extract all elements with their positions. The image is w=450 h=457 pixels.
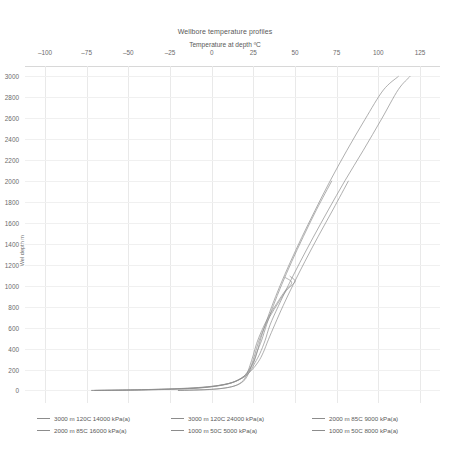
y-tick-label: 2200	[5, 157, 19, 164]
series-line	[92, 76, 399, 390]
y-tick-label: 2600	[5, 115, 19, 122]
legend-line-icon	[312, 430, 325, 431]
series-line	[95, 181, 332, 390]
series-lines	[25, 66, 440, 403]
x-tick-label: –50	[123, 49, 134, 56]
chart-title: Wellbore temperature profiles	[0, 28, 450, 35]
legend-item[interactable]: 3000 m 120C 24000 kPa(a)	[171, 415, 264, 422]
x-tick-label: 0	[210, 49, 214, 56]
legend-item[interactable]: 1000 m 50C 8000 kPa(a)	[312, 427, 398, 434]
x-tick-label: –75	[81, 49, 92, 56]
y-tick-label: 800	[8, 303, 19, 310]
legend-item[interactable]: 2000 m 85C 9000 kPa(a)	[312, 415, 398, 422]
x-tick-label: 100	[373, 49, 384, 56]
legend-label: 3000 m 120C 14000 kPa(a)	[54, 415, 130, 422]
legend-line-icon	[312, 418, 325, 419]
plot-area: –100–75–50–250255075100125 0200400600800…	[25, 66, 440, 403]
legend-label: 2000 m 85C 16000 kPa(a)	[54, 427, 127, 434]
y-tick-label: 0	[15, 387, 19, 394]
legend-line-icon	[171, 430, 184, 431]
y-tick-label: 2800	[5, 94, 19, 101]
y-tick-label: 400	[8, 345, 19, 352]
y-tick-label: 2000	[5, 178, 19, 185]
y-tick-label: 3000	[5, 73, 19, 80]
series-line	[95, 181, 348, 390]
legend-line-icon	[37, 418, 50, 419]
legend-item[interactable]: 2000 m 85C 16000 kPa(a)	[37, 427, 127, 434]
x-tick-label: 25	[250, 49, 257, 56]
y-tick-label: 1600	[5, 219, 19, 226]
y-tick-label: 600	[8, 324, 19, 331]
x-tick-label: 125	[415, 49, 426, 56]
legend-line-icon	[171, 418, 184, 419]
y-tick-label: 200	[8, 366, 19, 373]
x-tick-label: 75	[333, 49, 340, 56]
chart-page: Wellbore temperature profiles Temperatur…	[0, 0, 450, 457]
legend-label: 2000 m 85C 9000 kPa(a)	[329, 415, 398, 422]
legend-line-icon	[37, 430, 50, 431]
legend-item[interactable]: 3000 m 120C 14000 kPa(a)	[37, 415, 130, 422]
legend-label: 3000 m 120C 24000 kPa(a)	[188, 415, 264, 422]
x-tick-label: –25	[165, 49, 176, 56]
chart-legend: 3000 m 120C 14000 kPa(a) 3000 m 120C 240…	[25, 415, 440, 443]
legend-label: 1000 m 50C 8000 kPa(a)	[329, 427, 398, 434]
y-tick-label: 2400	[5, 136, 19, 143]
legend-row: 2000 m 85C 16000 kPa(a) 1000 m 50C 5000 …	[25, 427, 440, 439]
chart-subtitle: Temperature at depth ºC	[0, 41, 450, 48]
legend-item[interactable]: 1000 m 50C 5000 kPa(a)	[171, 427, 257, 434]
y-tick-label: 1400	[5, 240, 19, 247]
series-line	[178, 276, 295, 390]
x-tick-label: 50	[291, 49, 298, 56]
legend-row: 3000 m 120C 14000 kPa(a) 3000 m 120C 240…	[25, 415, 440, 427]
legend-label: 1000 m 50C 5000 kPa(a)	[188, 427, 257, 434]
y-tick-label: 1000	[5, 282, 19, 289]
y-tick-label: 1200	[5, 261, 19, 268]
y-tick-label: 1800	[5, 199, 19, 206]
x-tick-label: –100	[38, 49, 52, 56]
series-line	[178, 277, 291, 390]
